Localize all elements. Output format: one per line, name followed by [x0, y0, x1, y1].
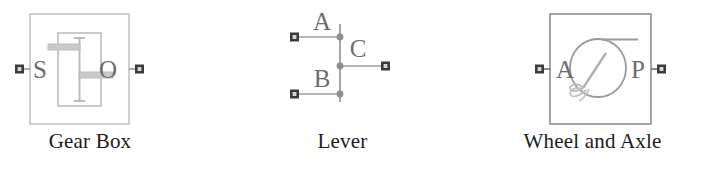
lever-port-c-inner	[384, 64, 388, 68]
gear-box-icon[interactable]: S O	[12, 6, 152, 128]
gear-box-glyph-area: S O	[0, 0, 180, 128]
lever-caption: Lever	[235, 128, 450, 154]
wheel-and-axle-port-a-inner	[538, 67, 542, 71]
gear-box-input-gear	[48, 44, 80, 50]
wheel-and-axle-icon[interactable]: A P	[532, 6, 672, 128]
lever-port-label-c: C	[350, 35, 367, 62]
lever-joint-a	[337, 34, 344, 41]
lever-icon[interactable]: A B C	[283, 6, 403, 128]
lever-port-label-a: A	[313, 8, 331, 35]
block-gear-box: S O Gear Box	[0, 0, 180, 172]
lever-port-a-inner	[293, 35, 297, 39]
lever-port-label-b: B	[314, 65, 331, 92]
gear-box-port-o-inner	[138, 67, 142, 71]
gear-box-port-label-o: O	[99, 56, 117, 83]
lever-glyph-area: A B C	[235, 0, 450, 128]
lever-joint-c	[337, 63, 344, 70]
wheel-and-axle-port-p-inner	[660, 67, 664, 71]
block-wheel-and-axle: A P Wheel and Axle	[480, 0, 705, 172]
gear-box-caption: Gear Box	[0, 128, 180, 154]
wheel-and-axle-port-label-p: P	[631, 56, 645, 83]
wheel-and-axle-caption: Wheel and Axle	[480, 128, 705, 154]
gear-box-port-label-s: S	[33, 56, 47, 83]
block-lever: A B C Lever	[235, 0, 450, 172]
lever-joint-b	[337, 91, 344, 98]
lever-port-b-inner	[293, 92, 297, 96]
wheel-and-axle-port-label-a: A	[556, 56, 574, 83]
mechanical-blocks-figure: S O Gear Box	[0, 0, 705, 172]
wheel-and-axle-rope	[583, 53, 606, 88]
wheel-and-axle-glyph-area: A P	[480, 0, 705, 128]
gear-box-port-s-inner	[18, 67, 22, 71]
